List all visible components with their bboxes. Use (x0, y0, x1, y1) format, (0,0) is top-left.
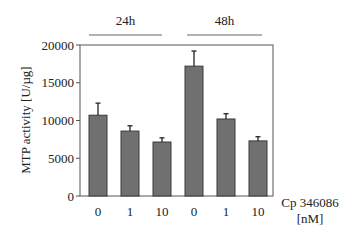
x-tick-label: 10 (156, 204, 169, 219)
y-tick-label: 15000 (42, 75, 75, 90)
bar-rect (217, 119, 235, 196)
bar-rect (249, 141, 267, 196)
y-axis-label: MTP activity [U/µg] (18, 66, 33, 173)
bar (185, 51, 203, 196)
x-axis-label-line2: [nM] (297, 211, 324, 226)
bar-rect (89, 115, 107, 196)
y-tick-label: 10000 (42, 113, 75, 128)
x-tick-label: 1 (127, 204, 134, 219)
x-tick-label: 1 (223, 204, 230, 219)
bar-chart: 24h48h 05000100001500020000 01100110 MTP… (0, 0, 352, 233)
bar (89, 103, 107, 196)
x-tick-label: 0 (95, 204, 102, 219)
y-tick-label: 0 (68, 189, 75, 204)
group-label: 48h (215, 13, 235, 28)
plot-frame (80, 45, 273, 196)
y-tick-label: 5000 (48, 151, 74, 166)
y-tick-label: 20000 (42, 38, 75, 53)
bars (89, 51, 267, 196)
bar (249, 137, 267, 196)
x-axis-label-line1: Cp 346086 (281, 195, 339, 210)
group-label: 24h (116, 13, 136, 28)
bar-rect (153, 142, 171, 196)
y-axis: 05000100001500020000 (42, 38, 81, 204)
bar-rect (121, 131, 139, 196)
x-axis-tick-labels: 01100110 (95, 204, 265, 219)
bar (121, 126, 139, 196)
bar (153, 138, 171, 196)
x-tick-label: 10 (252, 204, 265, 219)
x-tick-label: 0 (191, 204, 198, 219)
bar (217, 114, 235, 196)
bar-rect (185, 66, 203, 196)
group-labels: 24h48h (89, 13, 262, 35)
